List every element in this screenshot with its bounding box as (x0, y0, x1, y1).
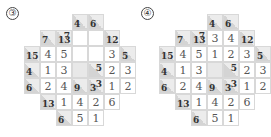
answer-cell[interactable]: 5 (191, 46, 207, 62)
answer-cell[interactable]: 4 (207, 94, 223, 110)
kakuro-puzzle-4: ④ 46713734121545123541352362493312131426… (135, 0, 270, 137)
clue-cell: 137 (56, 30, 72, 46)
answer-cell[interactable]: 1 (175, 62, 191, 78)
answer-cell[interactable]: 2 (88, 94, 104, 110)
down-clue: 6 (26, 83, 32, 93)
answer-cell[interactable]: 1 (88, 110, 104, 126)
clue-cell: 7 (40, 30, 56, 46)
down-clue: 4 (26, 67, 32, 77)
answer-cell[interactable]: 2 (239, 62, 255, 78)
answer-cell[interactable]: 4 (72, 94, 88, 110)
puzzle-number-label: ③ (6, 7, 19, 20)
down-clue: 15 (26, 51, 39, 61)
answer-cell[interactable]: 1 (104, 78, 120, 94)
answer-cell[interactable] (88, 30, 104, 46)
answer-cell[interactable]: 1 (56, 94, 72, 110)
answer-cell[interactable]: 4 (191, 78, 207, 94)
answer-cell[interactable] (72, 30, 88, 46)
answer-cell[interactable]: 2 (255, 78, 271, 94)
clue-cell: 15 (24, 46, 40, 62)
across-clue: 7 (199, 31, 205, 41)
down-clue: 6 (90, 19, 96, 29)
answer-cell[interactable]: 5 (56, 46, 72, 62)
down-clue: 9 (74, 83, 80, 93)
answer-cell[interactable]: 3 (239, 46, 255, 62)
clue-cell: 6 (191, 110, 207, 126)
clue-cell: 6 (223, 14, 239, 30)
down-clue: 4 (161, 67, 167, 77)
clue-cell: 7 (175, 30, 191, 46)
clue-cell: 9 (72, 78, 88, 94)
down-clue: 9 (209, 83, 215, 93)
answer-cell[interactable]: 4 (40, 46, 56, 62)
answer-cell[interactable]: 6 (239, 94, 255, 110)
answer-cell[interactable]: 6 (104, 94, 120, 110)
answer-cell[interactable]: 4 (175, 46, 191, 62)
answer-cell[interactable]: 5 (72, 110, 88, 126)
across-clue: 5 (96, 63, 102, 73)
down-clue: 6 (58, 115, 64, 125)
clue-cell: 6 (159, 78, 175, 94)
answer-cell[interactable]: 2 (223, 46, 239, 62)
across-clue: 7 (64, 31, 70, 41)
across-clue: 3 (96, 79, 102, 89)
answer-cell[interactable]: 3 (255, 62, 271, 78)
clue-cell: 15 (159, 46, 175, 62)
down-clue: 7 (42, 35, 48, 45)
down-clue: 4 (74, 19, 80, 29)
clue-cell: 12 (239, 30, 255, 46)
clue-cell: 4 (207, 14, 223, 30)
clue-cell: 137 (191, 30, 207, 46)
clue-cell: 33 (88, 78, 104, 94)
answer-cell[interactable]: 2 (120, 78, 136, 94)
down-clue: 4 (209, 19, 215, 29)
answer-cell[interactable]: 3 (120, 62, 136, 78)
answer-cell[interactable]: 3 (104, 46, 120, 62)
clue-cell: 4 (72, 14, 88, 30)
kakuro-puzzle-3: ③ 4671371215453541352362493312131426651 (0, 0, 135, 137)
answer-cell[interactable]: 1 (40, 62, 56, 78)
clue-cell: 9 (207, 78, 223, 94)
clue-cell: 5 (120, 46, 136, 62)
answer-cell[interactable]: 1 (207, 46, 223, 62)
answer-cell[interactable]: 1 (191, 94, 207, 110)
clue-cell: 12 (104, 30, 120, 46)
clue-cell: 13 (175, 94, 191, 110)
clue-cell: 5 (255, 46, 271, 62)
down-clue: 5 (122, 51, 128, 61)
answer-cell[interactable]: 2 (223, 94, 239, 110)
down-clue: 6 (161, 83, 167, 93)
clue-cell: 13 (40, 94, 56, 110)
answer-cell[interactable]: 4 (223, 30, 239, 46)
down-clue: 13 (42, 99, 55, 109)
down-clue: 6 (225, 19, 231, 29)
puzzle-number-label: ④ (141, 7, 154, 20)
blocked-cell (207, 62, 223, 78)
answer-cell[interactable]: 3 (191, 62, 207, 78)
clue-cell: 4 (24, 62, 40, 78)
down-clue: 5 (257, 51, 263, 61)
answer-cell[interactable] (72, 46, 88, 62)
answer-cell[interactable]: 1 (223, 110, 239, 126)
answer-cell[interactable]: 1 (239, 78, 255, 94)
answer-cell[interactable]: 3 (56, 62, 72, 78)
clue-cell: 5 (88, 62, 104, 78)
clue-cell: 6 (56, 110, 72, 126)
down-clue: 12 (241, 35, 254, 45)
blocked-cell (72, 62, 88, 78)
answer-cell[interactable]: 3 (207, 30, 223, 46)
answer-cell[interactable]: 5 (207, 110, 223, 126)
clue-cell: 4 (159, 62, 175, 78)
down-clue: 7 (177, 35, 183, 45)
answer-cell[interactable]: 2 (40, 78, 56, 94)
clue-cell: 33 (223, 78, 239, 94)
down-clue: 13 (177, 99, 190, 109)
answer-cell[interactable]: 2 (175, 78, 191, 94)
answer-cell[interactable] (88, 46, 104, 62)
clue-cell: 5 (223, 62, 239, 78)
answer-cell[interactable]: 4 (56, 78, 72, 94)
across-clue: 5 (231, 63, 237, 73)
down-clue: 6 (193, 115, 199, 125)
clue-cell: 6 (88, 14, 104, 30)
answer-cell[interactable]: 2 (104, 62, 120, 78)
